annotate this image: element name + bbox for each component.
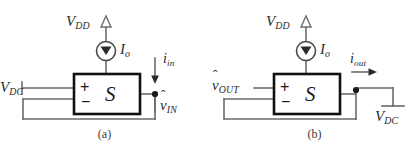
label-v-out: ˆvOUT <box>212 78 239 93</box>
label-v-in-hatwrap: ˆv <box>160 98 167 113</box>
up-arrow-open-icon <box>301 16 311 27</box>
label-io-sub: o <box>125 48 130 59</box>
label-v-out-hatwrap: ˆv <box>212 78 219 93</box>
label-i-out: iout <box>350 52 366 66</box>
label-i-out-sub: out <box>354 58 366 68</box>
label-i-in: iin <box>163 52 174 66</box>
label-io: Io <box>320 42 330 57</box>
label-vdd-sub: DD <box>75 20 90 31</box>
down-arrow-icon <box>151 76 159 85</box>
label-v-out-sub: OUT <box>219 84 239 95</box>
label-vdc-ground-main: V <box>375 108 384 124</box>
label-v-in-sub: IN <box>167 104 177 115</box>
caption-b: (b) <box>210 127 419 142</box>
label-vdc-ground: VDC <box>375 109 398 124</box>
label-vdd: VDD <box>66 14 90 29</box>
hat-accent-icon: ˆ <box>213 69 218 83</box>
terminal-minus-sign: − <box>281 93 290 111</box>
block-label-s: S <box>105 82 116 107</box>
caption-a: (a) <box>0 127 209 142</box>
junction-dot-icon <box>353 87 359 93</box>
label-v-in: ˆvIN <box>160 98 177 113</box>
label-io-sub: o <box>325 48 330 59</box>
block-label-s: S <box>305 82 316 107</box>
label-vdc: VDC <box>0 80 23 95</box>
figure-container: VDD Io iin VDC ˆvIN + − S (a) <box>0 0 419 149</box>
hat-accent-icon: ˆ <box>161 89 166 103</box>
label-io: Io <box>120 42 130 57</box>
terminal-minus-sign: − <box>81 93 90 111</box>
label-vdd-sub: DD <box>275 20 290 31</box>
panel-b: VDD Io iout ˆvOUT VDC + − S (b) <box>210 0 419 149</box>
label-vdd-main: V <box>266 13 275 29</box>
up-arrow-open-icon <box>101 16 111 27</box>
label-vdc-ground-sub: DC <box>384 115 398 126</box>
right-arrow-icon <box>369 68 378 76</box>
junction-dot-icon <box>152 91 158 97</box>
label-i-in-sub: in <box>167 58 175 68</box>
label-vdc-main: V <box>0 79 9 95</box>
panel-a: VDD Io iin VDC ˆvIN + − S (a) <box>0 0 209 149</box>
label-vdc-sub: DC <box>9 86 23 97</box>
label-vdd-main: V <box>66 13 75 29</box>
label-vdd: VDD <box>266 14 290 29</box>
